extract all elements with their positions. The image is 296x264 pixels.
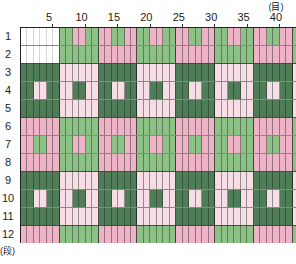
row-label: 11 <box>0 210 16 222</box>
grid-cell <box>293 82 296 99</box>
row-label: 1 <box>0 30 16 42</box>
row-unit-label: (段) <box>0 244 15 257</box>
row-label: 9 <box>0 174 16 186</box>
grid-row <box>21 136 296 154</box>
grid-cell <box>293 64 296 81</box>
column-label: 15 <box>108 11 120 23</box>
row-label: 6 <box>0 120 16 132</box>
grid-row <box>21 46 296 64</box>
grid-cell <box>293 46 296 63</box>
column-label: 5 <box>46 11 52 23</box>
grid-cell <box>293 100 296 117</box>
grid-row <box>21 154 296 172</box>
column-label: 20 <box>140 11 152 23</box>
row-label: 10 <box>0 192 16 204</box>
pattern-grid <box>20 27 296 243</box>
grid-cell <box>293 208 296 225</box>
grid-row <box>21 226 296 243</box>
grid-cell <box>293 172 296 189</box>
column-label: 35 <box>237 11 249 23</box>
column-label: 10 <box>75 11 87 23</box>
grid-row <box>21 118 296 136</box>
grid-cell <box>293 118 296 135</box>
grid-cell <box>293 136 296 153</box>
row-label: 7 <box>0 138 16 150</box>
grid-row <box>21 190 296 208</box>
grid-row <box>21 64 296 82</box>
row-label: 2 <box>0 48 16 60</box>
grid-cell <box>293 226 296 243</box>
row-label: 4 <box>0 84 16 96</box>
grid-row <box>21 82 296 100</box>
row-label: 5 <box>0 102 16 114</box>
column-label: 25 <box>173 11 185 23</box>
grid-cell <box>293 154 296 171</box>
grid-row <box>21 100 296 118</box>
row-label: 3 <box>0 66 16 78</box>
grid-cell <box>293 190 296 207</box>
grid-row <box>21 208 296 226</box>
column-label: 30 <box>205 11 217 23</box>
row-label: 12 <box>0 228 16 240</box>
grid-row <box>21 172 296 190</box>
grid-row <box>21 28 296 46</box>
grid-cell <box>293 28 296 45</box>
row-label: 8 <box>0 156 16 168</box>
column-unit-label: (目) <box>269 0 284 13</box>
